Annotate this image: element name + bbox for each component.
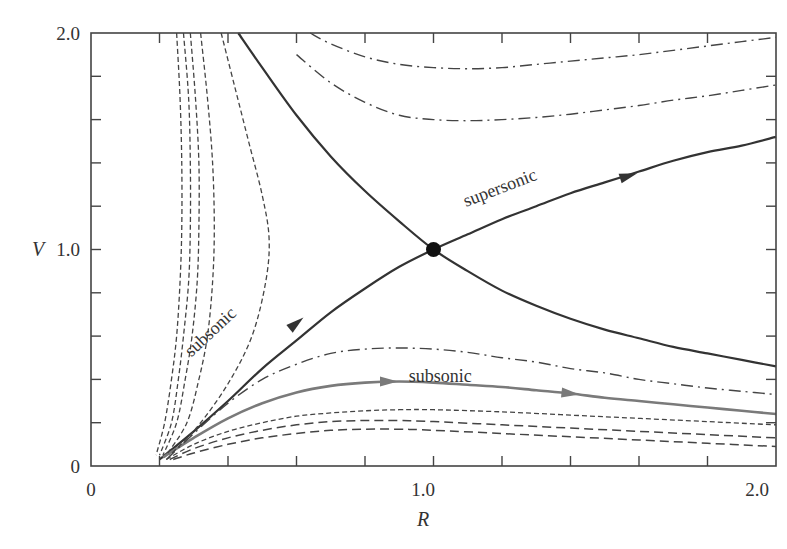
series-curve (170, 33, 269, 455)
y-tick-label-min: 0 (71, 456, 81, 477)
direction-arrow-icon (380, 377, 398, 387)
annotation-label: subsonic (409, 366, 472, 386)
y-axis-title: V (32, 238, 47, 260)
series-curve (297, 55, 777, 121)
annotation-label: subsonic (180, 303, 240, 361)
series-curve (170, 420, 776, 459)
x-tick-label-min: 0 (86, 479, 96, 500)
direction-arrow-icon (619, 168, 639, 183)
series-curve (166, 410, 776, 460)
x-tick-label-max: 2.0 (745, 479, 769, 500)
y-tick-label-mid: 1.0 (56, 239, 80, 260)
series-curve (163, 382, 776, 458)
curves-layer (156, 33, 776, 460)
y-tick-label-max: 2.0 (56, 23, 80, 44)
series-curve (160, 33, 191, 455)
series-curve (160, 137, 777, 460)
series-curve (156, 33, 182, 455)
direction-arrow-icon (286, 314, 306, 333)
x-axis-title: R (416, 508, 429, 530)
phase-plot: 2.0 1.0 0 0 1.0 2.0 R V supersonicsubson… (0, 0, 787, 549)
x-tick-label-mid: 1.0 (411, 479, 435, 500)
series-curve (310, 33, 776, 69)
annotation-label: supersonic (460, 164, 539, 210)
critical-point-marker (426, 242, 441, 257)
annotations-layer: supersonicsubsonicsubsonic (180, 164, 539, 385)
series-curve (238, 33, 776, 366)
